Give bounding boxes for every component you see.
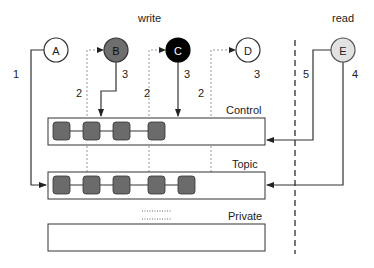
diagram-canvas: write read 1 2 3 2 3 2 3 5 4 A B C (0, 0, 374, 268)
edge-label-1: 1 (13, 68, 19, 80)
node-a: A (44, 38, 68, 62)
node-a-label: A (52, 45, 60, 57)
edge-e-to-topic (267, 62, 343, 185)
node-e-label: E (339, 45, 346, 57)
node-d-label: D (244, 45, 252, 57)
node-c-label: C (174, 45, 182, 57)
edge-a-to-topic (31, 50, 46, 185)
edge-label-c-dotted: 2 (144, 87, 150, 99)
edge-label-5: 5 (303, 68, 309, 80)
edge-label-b-solid: 3 (122, 68, 128, 80)
topic-label: Topic (232, 158, 258, 170)
write-header: write (137, 12, 161, 24)
edge-label-4: 4 (352, 68, 358, 80)
dotted-guides (87, 50, 234, 172)
private-label: Private (228, 210, 262, 222)
node-c: C (166, 38, 190, 62)
node-d: D (236, 38, 260, 62)
control-label: Control (226, 104, 261, 116)
ellipsis-dots (142, 211, 171, 219)
node-b: B (104, 38, 128, 62)
edge-e-to-control (267, 50, 331, 140)
edge-label-d-num: 3 (254, 68, 260, 80)
private-buffer (48, 224, 265, 251)
node-b-label: B (112, 45, 119, 57)
node-e: E (331, 38, 355, 62)
edge-b-to-control (101, 62, 116, 116)
edge-label-c-solid: 3 (184, 68, 190, 80)
edge-label-b-dotted: 2 (76, 87, 82, 99)
edge-label-d-dotted: 2 (198, 87, 204, 99)
read-header: read (332, 12, 354, 24)
